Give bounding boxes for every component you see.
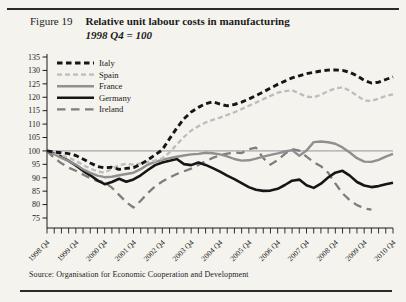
y-tick-label: 115 (28, 106, 40, 115)
x-tick-label: 2004 Q4 (199, 238, 224, 263)
legend-item-france: France (57, 81, 123, 91)
legend-item-ireland: Ireland (57, 104, 124, 114)
series-line-germany (47, 151, 393, 191)
legend-item-germany: Germany (57, 93, 132, 103)
legend-item-italy: Italy (57, 58, 115, 68)
y-tick-label: 105 (28, 133, 40, 142)
x-tick-label: 2000 Q4 (84, 238, 109, 263)
legend-label: France (99, 81, 123, 91)
bottom-rule (20, 290, 392, 292)
figure-label: Figure 19 (30, 15, 72, 28)
x-tick-label: 1999 Q4 (55, 238, 80, 263)
y-tick-label: 110 (28, 120, 40, 129)
top-rule (7, 8, 399, 10)
x-tick-label: 2002 Q4 (142, 238, 167, 263)
x-tick-label: 2005 Q4 (228, 238, 253, 263)
y-tick-label: 80 (32, 200, 40, 209)
x-tick-label: 2003 Q4 (171, 238, 196, 263)
legend: ItalySpainFranceGermanyIreland (57, 58, 132, 114)
chart-title: Relative unit labour costs in manufactur… (85, 15, 289, 28)
x-tick-label: 2008 Q4 (315, 238, 340, 263)
legend-label: Ireland (99, 104, 124, 114)
title-block: Figure 19 Relative unit labour costs in … (30, 15, 290, 42)
x-axis-ticks: 1998 Q41999 Q42000 Q42001 Q42002 Q42003 … (26, 228, 397, 263)
x-tick-label: 2009 Q4 (344, 238, 369, 263)
y-tick-label: 130 (28, 66, 40, 75)
legend-label: Italy (99, 58, 115, 68)
y-tick-label: 120 (28, 93, 40, 102)
axes (47, 54, 393, 228)
x-tick-label: 2006 Q4 (257, 238, 282, 263)
y-tick-label: 100 (28, 147, 40, 156)
chart-subtitle: 1998 Q4 = 100 (85, 29, 289, 42)
legend-item-spain: Spain (57, 70, 119, 80)
x-tick-label: 1998 Q4 (26, 238, 51, 263)
y-tick-label: 135 (28, 53, 40, 62)
y-tick-label: 85 (32, 187, 40, 196)
line-chart: 75808590951001051101151201251301351998 Q… (0, 44, 406, 270)
source-note: Source: Organisation for Economic Cooper… (29, 270, 249, 279)
y-tick-label: 95 (32, 160, 40, 169)
figure-page: Figure 19 Relative unit labour costs in … (0, 0, 406, 302)
y-tick-label: 75 (32, 214, 40, 223)
x-tick-label: 2007 Q4 (286, 238, 311, 263)
legend-label: Germany (99, 93, 132, 103)
legend-label: Spain (99, 70, 119, 80)
y-tick-label: 125 (28, 80, 40, 89)
x-tick-label: 2010 Q4 (372, 238, 397, 263)
x-tick-label: 2001 Q4 (113, 238, 138, 263)
y-axis-ticks: 7580859095100105110115120125130135 (28, 53, 47, 223)
y-tick-label: 90 (32, 174, 40, 183)
